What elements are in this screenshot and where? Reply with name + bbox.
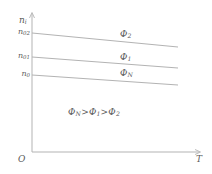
origin-label: O [18, 155, 25, 164]
curve-label-phi2: Φ2 [120, 30, 131, 39]
relation-annotation: ΦN>Φ1>Φ2 [68, 108, 120, 117]
y-tick-n02-subscript: 02 [23, 30, 30, 36]
y-axis-label-subscript: i [25, 18, 27, 25]
relation-third-base: Φ [108, 107, 116, 117]
relation-first-base: Φ [68, 107, 76, 117]
curve-label-phiN: ΦN [120, 69, 133, 78]
relation-operator-1: > [81, 107, 89, 117]
y-tick-label-n0: n0 [5, 70, 30, 79]
y-axis-label: ni [19, 16, 27, 25]
curve-label-phi1: Φ1 [120, 53, 131, 62]
y-tick-n0-subscript: 0 [27, 72, 30, 78]
curve-label-phi2-subscript: 2 [127, 32, 131, 39]
relation-third-subscript: 2 [116, 110, 120, 117]
curve-phi2 [32, 33, 178, 47]
curve-phiN [32, 75, 178, 85]
curve-phi1 [32, 57, 178, 68]
y-tick-n01-subscript: 01 [23, 54, 30, 60]
y-tick-label-n01: n01 [5, 52, 30, 61]
plot-canvas [0, 0, 212, 174]
figure-container: ni n02 n01 n0 Φ2 Φ1 ΦN ΦN>Φ1>Φ2 O T [0, 0, 212, 174]
curve-label-phiN-subscript: N [127, 71, 132, 78]
curve-label-phi1-subscript: 1 [127, 55, 131, 62]
x-axis-label: T [196, 155, 202, 164]
y-tick-label-n02: n02 [5, 28, 30, 37]
